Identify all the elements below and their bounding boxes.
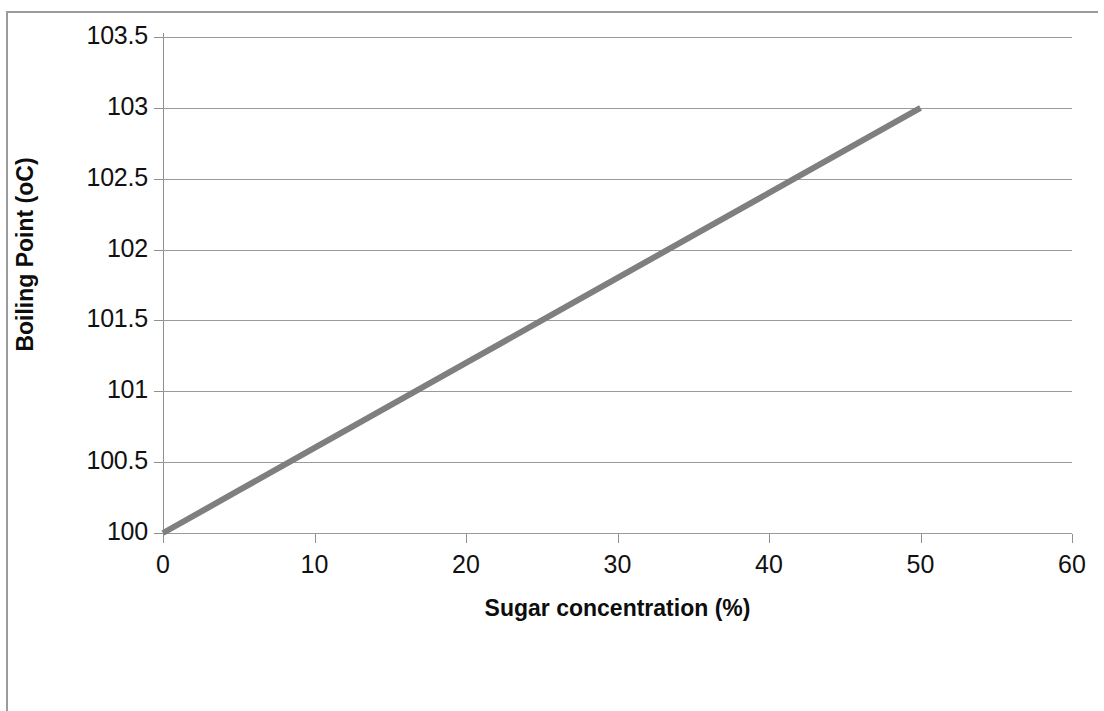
x-tick-label: 60	[1058, 550, 1086, 579]
x-tick-mark	[163, 534, 164, 543]
y-tick-mark	[154, 462, 163, 463]
x-axis-title: Sugar concentration (%)	[163, 595, 1072, 622]
x-tick-label: 30	[604, 550, 632, 579]
series-line-boiling-point	[163, 108, 921, 533]
y-tick-label: 102	[107, 234, 148, 263]
y-tick-label: 101.5	[86, 304, 148, 333]
y-tick-label: 103.5	[86, 21, 148, 50]
y-tick-label: 103	[107, 92, 148, 121]
y-tick-label: 100	[107, 517, 148, 546]
y-tick-label: 101	[107, 375, 148, 404]
x-tick-mark	[315, 534, 316, 543]
x-tick-label: 20	[452, 550, 480, 579]
x-tick-label: 50	[907, 550, 935, 579]
y-axis-title: Boiling Point (oC)	[12, 0, 39, 535]
x-tick-mark	[769, 534, 770, 543]
x-tick-mark	[466, 534, 467, 543]
series-line-svg	[163, 37, 1072, 533]
x-tick-label: 0	[156, 550, 170, 579]
y-tick-label: 100.5	[86, 446, 148, 475]
y-tick-label: 102.5	[86, 163, 148, 192]
y-tick-mark	[154, 179, 163, 180]
x-tick-label: 40	[755, 550, 783, 579]
y-tick-mark	[154, 250, 163, 251]
y-tick-mark	[154, 391, 163, 392]
x-tick-mark	[618, 534, 619, 543]
gridline-y	[163, 533, 1072, 534]
x-tick-mark	[921, 534, 922, 543]
y-tick-mark	[154, 108, 163, 109]
y-tick-mark	[154, 320, 163, 321]
x-tick-label: 10	[301, 550, 329, 579]
y-tick-mark	[154, 533, 163, 534]
y-tick-mark	[154, 37, 163, 38]
plot-area	[163, 37, 1072, 533]
x-tick-mark	[1072, 534, 1073, 543]
